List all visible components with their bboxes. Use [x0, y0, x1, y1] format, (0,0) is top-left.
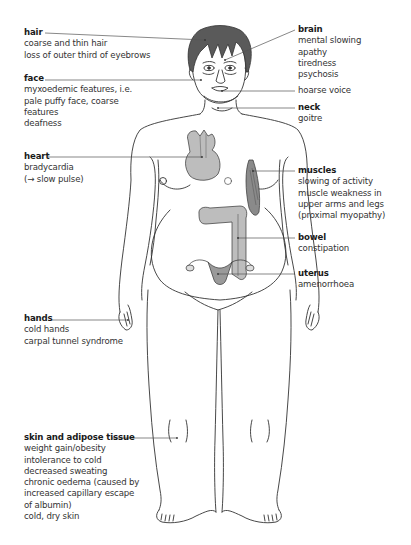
label-neck: neck goitre — [298, 102, 322, 125]
label-hands: hands cold hands carpal tunnel syndrome — [24, 313, 123, 347]
leg-right-outer — [277, 290, 291, 510]
label-muscles: muscles slowing of activity muscle weakn… — [298, 165, 385, 221]
torso-left — [119, 114, 200, 312]
label-voice: hoarse voice — [298, 85, 351, 96]
label-hair: hair coarse and thin hair loss of outer … — [24, 27, 150, 61]
label-title: hair — [24, 27, 150, 38]
label-bowel: bowel constipation — [298, 232, 349, 255]
leg-left-outer — [147, 290, 161, 510]
heart-organ — [186, 130, 221, 180]
label-heart: heart bradycardia (→ slow pulse) — [24, 151, 83, 185]
label-skin: skin and adipose tissue weight gain/obes… — [24, 432, 139, 522]
label-face: face myxoedemic features, i.e. pale puff… — [24, 73, 132, 129]
face-outline — [192, 50, 246, 103]
label-uterus: uterus amenorrhoea — [298, 268, 354, 291]
hair — [188, 26, 251, 73]
label-brain: brain mental slowing apathy tiredness ps… — [298, 24, 361, 80]
